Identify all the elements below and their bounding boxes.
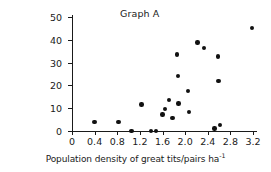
data-point	[167, 98, 171, 102]
x-axis-tick	[185, 131, 186, 135]
x-axis-tick-label: 1.2	[132, 136, 147, 147]
x-axis-title: Population density of great tits/pairs h…	[0, 152, 271, 164]
data-point	[195, 40, 199, 44]
data-point	[116, 120, 120, 124]
x-axis-tick-label: 0.8	[110, 136, 125, 147]
data-point	[216, 54, 220, 58]
y-axis-tick: 20	[68, 85, 72, 86]
x-axis-tick	[140, 131, 141, 135]
x-axis-tick	[117, 131, 118, 135]
data-point	[149, 129, 153, 133]
data-point	[187, 110, 191, 114]
data-point	[176, 74, 180, 78]
data-point	[186, 89, 190, 93]
data-point	[250, 26, 254, 30]
data-point	[212, 126, 216, 130]
x-axis-tick-label: 2.4	[200, 136, 215, 147]
x-axis-tick	[230, 131, 231, 135]
plot-area: 0102030405000.40.81.21.62.02.42.83.2	[72, 17, 253, 131]
data-point	[154, 129, 158, 133]
x-axis-tick	[253, 131, 254, 135]
data-point	[176, 101, 180, 105]
data-point	[163, 107, 167, 111]
data-point	[160, 112, 164, 116]
data-point	[202, 46, 206, 50]
x-axis-tick	[72, 131, 73, 135]
x-axis-tick-label: 1.6	[155, 136, 170, 147]
y-axis-tick: 10	[68, 108, 72, 109]
data-point	[218, 123, 222, 127]
x-axis-tick-label: 0.4	[87, 136, 102, 147]
x-axis-title-text: Population density of great tits/pairs h…	[46, 154, 220, 164]
y-axis-tick-label: 40	[50, 34, 62, 45]
scatter-chart-figure: Predation rate by weasels on great tits/…	[0, 0, 271, 172]
y-axis-tick-label: 0	[56, 126, 62, 137]
y-axis-tick: 30	[68, 63, 72, 64]
x-axis-tick-label: 0	[69, 136, 75, 147]
data-point	[175, 52, 179, 56]
data-point	[139, 102, 143, 106]
x-axis-tick-label: 3.2	[245, 136, 260, 147]
x-axis-tick	[208, 131, 209, 135]
x-axis-line	[70, 131, 257, 132]
data-point	[216, 79, 220, 83]
y-axis-tick: 40	[68, 40, 72, 41]
data-point	[92, 120, 96, 124]
data-point	[170, 116, 174, 120]
x-axis-title-exponent: -1	[219, 152, 225, 159]
y-axis-tick-label: 20	[50, 80, 62, 91]
y-axis-tick-label: 10	[50, 103, 62, 114]
x-axis-tick-label: 2.8	[223, 136, 238, 147]
x-axis-tick-label: 2.0	[178, 136, 193, 147]
data-point	[129, 129, 133, 133]
y-axis-tick-label: 30	[50, 57, 62, 68]
x-axis-tick	[163, 131, 164, 135]
x-axis-tick	[95, 131, 96, 135]
y-axis-tick-label: 50	[50, 12, 62, 23]
y-axis-tick: 50	[68, 17, 72, 18]
